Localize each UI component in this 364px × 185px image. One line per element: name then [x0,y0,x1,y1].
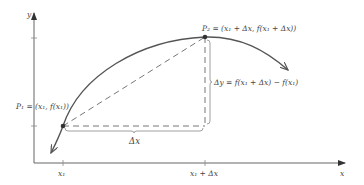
delta-y-brace [207,40,212,124]
p1-label: P₁ = (x₁, f(x₁)) [16,103,69,111]
delta-x-label: Δx [129,137,140,146]
diagram-canvas [0,0,364,185]
x1-plus-dx-tick-label: x₁ + Δx [190,170,218,178]
point-p1 [61,124,66,129]
secant-diagram: y x x₁ x₁ + Δx P₁ = (x₁, f(x₁)) P₂ = (x₁… [0,0,364,185]
delta-y-label: Δy = f(x₁ + Δx) − f(x₁) [214,79,298,87]
point-p2 [203,35,208,40]
function-curve-left-tail [51,126,63,153]
secant-line [63,37,205,126]
y-axis-label: y [27,11,31,19]
delta-x-brace [65,128,203,133]
p2-label: P₂ = (x₁ + Δx, f(x₁ + Δx)) [202,25,296,33]
x-axis-label: x [340,170,344,178]
x1-tick-label: x₁ [58,170,65,178]
